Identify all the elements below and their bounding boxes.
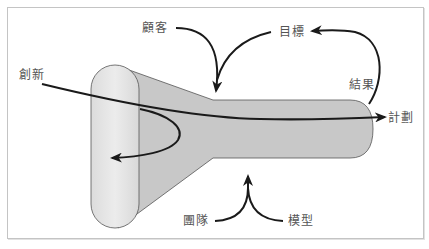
result-to-goal-arrow [312,30,380,104]
label-goal: 目標 [279,25,304,39]
model-merge-arrow [248,188,283,221]
funnel-mouth-capsule [91,65,139,228]
label-innovation: 創新 [19,68,44,82]
team-merge-arrow [215,188,248,221]
customer-arrow [176,28,217,91]
goal-arrow [217,32,271,80]
label-plan: 計劃 [388,111,413,125]
funnel-diagram [0,0,429,249]
label-result: 結果 [349,78,374,92]
label-customer: 顧客 [142,21,167,35]
label-team: 團隊 [183,214,208,228]
label-model: 模型 [288,214,313,228]
